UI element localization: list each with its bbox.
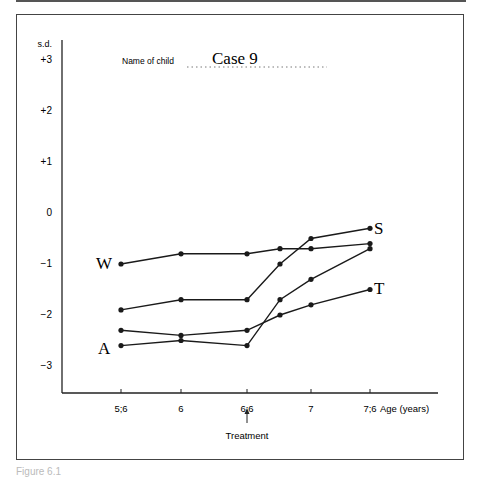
data-series xyxy=(118,226,372,349)
series-label-S: S xyxy=(374,219,383,238)
data-point xyxy=(244,251,249,256)
data-point xyxy=(277,261,282,266)
series-label-W: W xyxy=(96,254,113,273)
data-point xyxy=(308,246,313,251)
data-point xyxy=(308,236,313,241)
treatment-label: Treatment xyxy=(226,430,269,441)
y-tick-label: −2 xyxy=(41,309,53,320)
data-point xyxy=(367,241,372,246)
data-point xyxy=(277,297,282,302)
x-axis-label: Age (years) xyxy=(380,403,429,414)
data-point xyxy=(244,297,249,302)
y-tick-label: 0 xyxy=(46,207,52,218)
data-point xyxy=(367,226,372,231)
data-point xyxy=(118,328,123,333)
data-point xyxy=(178,333,183,338)
y-tick-labels: +3+2+10−1−2−3 xyxy=(41,54,53,371)
data-point xyxy=(244,328,249,333)
y-axis-label: s.d. xyxy=(37,39,52,49)
series-label-A: A xyxy=(98,339,111,358)
series-labels: WSAT xyxy=(96,219,385,358)
data-point xyxy=(244,343,249,348)
y-tick-label: +1 xyxy=(41,156,53,167)
data-point xyxy=(178,251,183,256)
series-label-T: T xyxy=(374,279,385,298)
y-tick-label: +3 xyxy=(41,54,53,65)
figure-caption: Figure 6.1 xyxy=(16,466,61,477)
data-point xyxy=(118,343,123,348)
data-point xyxy=(308,277,313,282)
name-of-child-label: Name of child xyxy=(122,56,174,66)
data-point xyxy=(277,246,282,251)
data-point xyxy=(118,261,123,266)
y-tick-label: −3 xyxy=(41,360,53,371)
data-point xyxy=(367,246,372,251)
data-point xyxy=(308,302,313,307)
x-tick-label: 7 xyxy=(308,403,313,414)
x-tick-label: 7;6 xyxy=(363,403,376,414)
y-tick-label: −1 xyxy=(41,258,53,269)
data-point xyxy=(277,312,282,317)
data-point xyxy=(118,307,123,312)
y-tick-label: +2 xyxy=(41,105,53,116)
x-tick-label: 6 xyxy=(178,403,183,414)
case-name: Case 9 xyxy=(212,49,258,68)
data-point xyxy=(367,287,372,292)
data-point xyxy=(178,338,183,343)
x-tick-label: 5;6 xyxy=(114,403,127,414)
data-point xyxy=(178,297,183,302)
